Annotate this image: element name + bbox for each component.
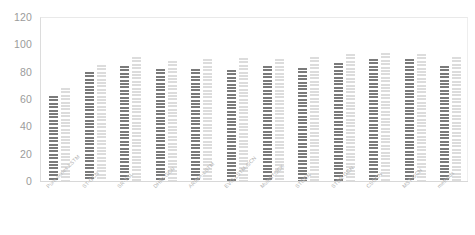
bar-series-2 bbox=[381, 53, 390, 181]
y-axis-tick-100: 100 bbox=[0, 38, 32, 50]
bar-series-1 bbox=[405, 59, 414, 181]
bar-series-2 bbox=[132, 57, 141, 181]
y-axis-tick-40: 40 bbox=[0, 120, 32, 132]
y-axis-tick-120: 120 bbox=[0, 11, 32, 23]
bar-series-2 bbox=[346, 54, 355, 181]
bar-series-2 bbox=[168, 61, 177, 181]
bar-fill bbox=[156, 69, 165, 181]
bar-group bbox=[334, 17, 362, 181]
y-axis-tick-20: 20 bbox=[0, 148, 32, 160]
bar-fill bbox=[310, 57, 319, 181]
y-axis-tick-60: 60 bbox=[0, 93, 32, 105]
bar-series-2 bbox=[417, 54, 426, 181]
bar-series-1 bbox=[369, 59, 378, 181]
bar-series-1 bbox=[120, 66, 129, 181]
bar-fill bbox=[49, 96, 58, 181]
bar-fill bbox=[227, 70, 236, 181]
bar-fill bbox=[298, 68, 307, 181]
bar-series-1 bbox=[85, 72, 94, 181]
bar-fill bbox=[168, 61, 177, 181]
bar-group bbox=[85, 17, 113, 181]
bar-series-1 bbox=[334, 63, 343, 181]
bar-group bbox=[298, 17, 326, 181]
bar-fill bbox=[191, 69, 200, 181]
bar-group bbox=[191, 17, 219, 181]
bar-fill bbox=[346, 54, 355, 181]
bar-series-1 bbox=[298, 68, 307, 181]
bar-fill bbox=[334, 63, 343, 181]
bar-group bbox=[120, 17, 148, 181]
bar-series-1 bbox=[49, 96, 58, 181]
bar-fill bbox=[275, 59, 284, 181]
bar-group bbox=[440, 17, 468, 181]
bar-series-1 bbox=[440, 66, 449, 181]
bar-series-2 bbox=[97, 65, 106, 181]
bar-fill bbox=[132, 57, 141, 181]
y-axis: 020406080100120 bbox=[0, 0, 36, 235]
bar-fill bbox=[417, 54, 426, 181]
bar-fill bbox=[85, 72, 94, 181]
bar-group bbox=[405, 17, 433, 181]
bar-fill bbox=[263, 66, 272, 181]
bar-series-1 bbox=[263, 66, 272, 181]
bar-fill bbox=[381, 53, 390, 181]
bar-series-2 bbox=[275, 59, 284, 181]
y-axis-tick-80: 80 bbox=[0, 66, 32, 78]
bar-series-2 bbox=[452, 57, 461, 181]
bar-series-1 bbox=[191, 69, 200, 181]
bar-fill bbox=[120, 66, 129, 181]
bar-fill bbox=[452, 57, 461, 181]
bar-series-1 bbox=[227, 70, 236, 181]
bar-fill bbox=[440, 66, 449, 181]
x-axis-labels: Pure series LSTMST-GCNSR-TSLDHRI-GCNARIM… bbox=[41, 183, 468, 235]
bar-series-2 bbox=[310, 57, 319, 181]
bar-fill bbox=[405, 59, 414, 181]
bar-chart: 020406080100120 Pure series LSTMST-GCNSR… bbox=[0, 0, 475, 235]
bar-fill bbox=[369, 59, 378, 181]
bar-group bbox=[263, 17, 291, 181]
bar-group bbox=[156, 17, 184, 181]
bar-series-1 bbox=[156, 69, 165, 181]
bar-group bbox=[369, 17, 397, 181]
y-axis-tick-0: 0 bbox=[0, 175, 32, 187]
bar-fill bbox=[97, 65, 106, 181]
